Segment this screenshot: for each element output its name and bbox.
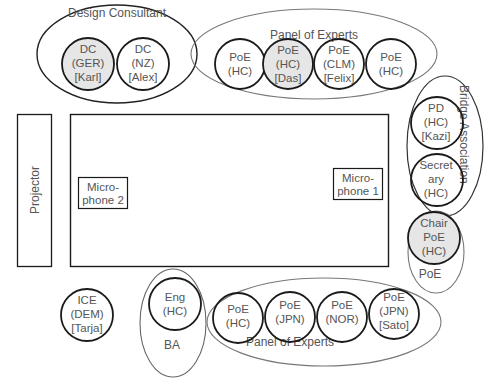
svg-text:Secret: Secret — [419, 159, 453, 171]
svg-text:(JPN): (JPN) — [275, 313, 305, 325]
seating-diagram: Design Consultant Panel of Experts Bridg… — [0, 0, 492, 380]
person-chair: Chair PoE (HC) — [408, 212, 460, 264]
projector-label: Projector — [28, 166, 42, 214]
svg-text:ary: ary — [428, 173, 444, 185]
svg-text:(HC): (HC) — [379, 65, 403, 77]
svg-text:DC: DC — [80, 43, 97, 55]
svg-text:(DEM): (DEM) — [70, 308, 103, 320]
svg-text:PoE: PoE — [227, 303, 249, 315]
person-poe-bottom-1: PoE (HC) — [213, 293, 263, 343]
svg-text:[Kazi]: [Kazi] — [422, 130, 451, 142]
person-secretary: Secret ary (HC) — [411, 154, 463, 206]
svg-text:[Tarja]: [Tarja] — [71, 322, 102, 334]
person-dc-ger: DC (GER) [Karl] — [62, 38, 114, 90]
svg-text:(HC): (HC) — [163, 305, 187, 317]
svg-text:(NOR): (NOR) — [325, 313, 358, 325]
person-poe-top-2: PoE (HC) [Das] — [263, 39, 313, 89]
person-dc-nz: DC (NZ) [Alex] — [117, 38, 169, 90]
svg-text:PoE: PoE — [277, 44, 299, 56]
person-eng: Eng (HC) — [149, 278, 201, 330]
svg-text:DC: DC — [135, 43, 152, 55]
svg-text:PoE: PoE — [279, 299, 301, 311]
svg-text:PoE: PoE — [229, 51, 251, 63]
svg-text:PoE: PoE — [383, 291, 405, 303]
person-poe-top-3: PoE (CLM) [Felix] — [314, 39, 364, 89]
svg-text:(GER): (GER) — [72, 57, 105, 69]
svg-text:PoE: PoE — [328, 44, 350, 56]
svg-text:PoE: PoE — [331, 299, 353, 311]
projector: Projector — [18, 115, 52, 267]
svg-text:(HC): (HC) — [422, 245, 446, 257]
design-consultant-label: Design Consultant — [68, 6, 167, 20]
svg-text:[Sato]: [Sato] — [379, 319, 409, 331]
mic2-line2: phone 2 — [82, 194, 124, 206]
svg-text:[Alex]: [Alex] — [129, 71, 158, 83]
svg-text:[Karl]: [Karl] — [75, 71, 102, 83]
mic2-line1: Micro- — [87, 181, 119, 193]
svg-text:[Das]: [Das] — [275, 72, 302, 84]
microphone-2: Micro- phone 2 — [79, 178, 128, 209]
svg-text:[Felix]: [Felix] — [324, 72, 355, 84]
person-ice: ICE (DEM) [Tarja] — [61, 289, 113, 341]
svg-text:PoE: PoE — [380, 51, 402, 63]
bridge-association-label: Bridge Association — [457, 85, 471, 184]
svg-text:(HC): (HC) — [226, 317, 250, 329]
svg-text:(HC): (HC) — [228, 65, 252, 77]
person-poe-bottom-4: PoE (JPN) [Sato] — [369, 289, 419, 339]
svg-text:ICE: ICE — [77, 294, 97, 306]
microphone-1: Micro- phone 1 — [334, 169, 383, 200]
svg-text:PoE: PoE — [423, 231, 445, 243]
ba-group-label: BA — [164, 338, 180, 352]
mic1-line1: Micro- — [342, 172, 374, 184]
svg-text:(CLM): (CLM) — [323, 58, 355, 70]
poe-chair-group-label: PoE — [419, 267, 442, 281]
svg-text:Eng: Eng — [165, 291, 185, 303]
design-consultant-group: Design Consultant — [37, 5, 197, 103]
ba-group: BA — [140, 269, 206, 377]
svg-text:(NZ): (NZ) — [132, 57, 155, 69]
svg-text:PD: PD — [428, 102, 444, 114]
svg-text:(HC): (HC) — [424, 187, 448, 199]
svg-text:(HC): (HC) — [424, 116, 448, 128]
svg-text:(JPN): (JPN) — [379, 305, 409, 317]
svg-text:Chair: Chair — [420, 217, 448, 229]
person-poe-top-1: PoE (HC) — [215, 39, 265, 89]
mic1-line2: phone 1 — [337, 185, 379, 197]
person-pd: PD (HC) [Kazi] — [411, 97, 463, 149]
svg-text:(HC): (HC) — [276, 58, 300, 70]
person-poe-bottom-3: PoE (NOR) — [317, 292, 367, 342]
person-poe-top-4: PoE (HC) — [366, 39, 416, 89]
